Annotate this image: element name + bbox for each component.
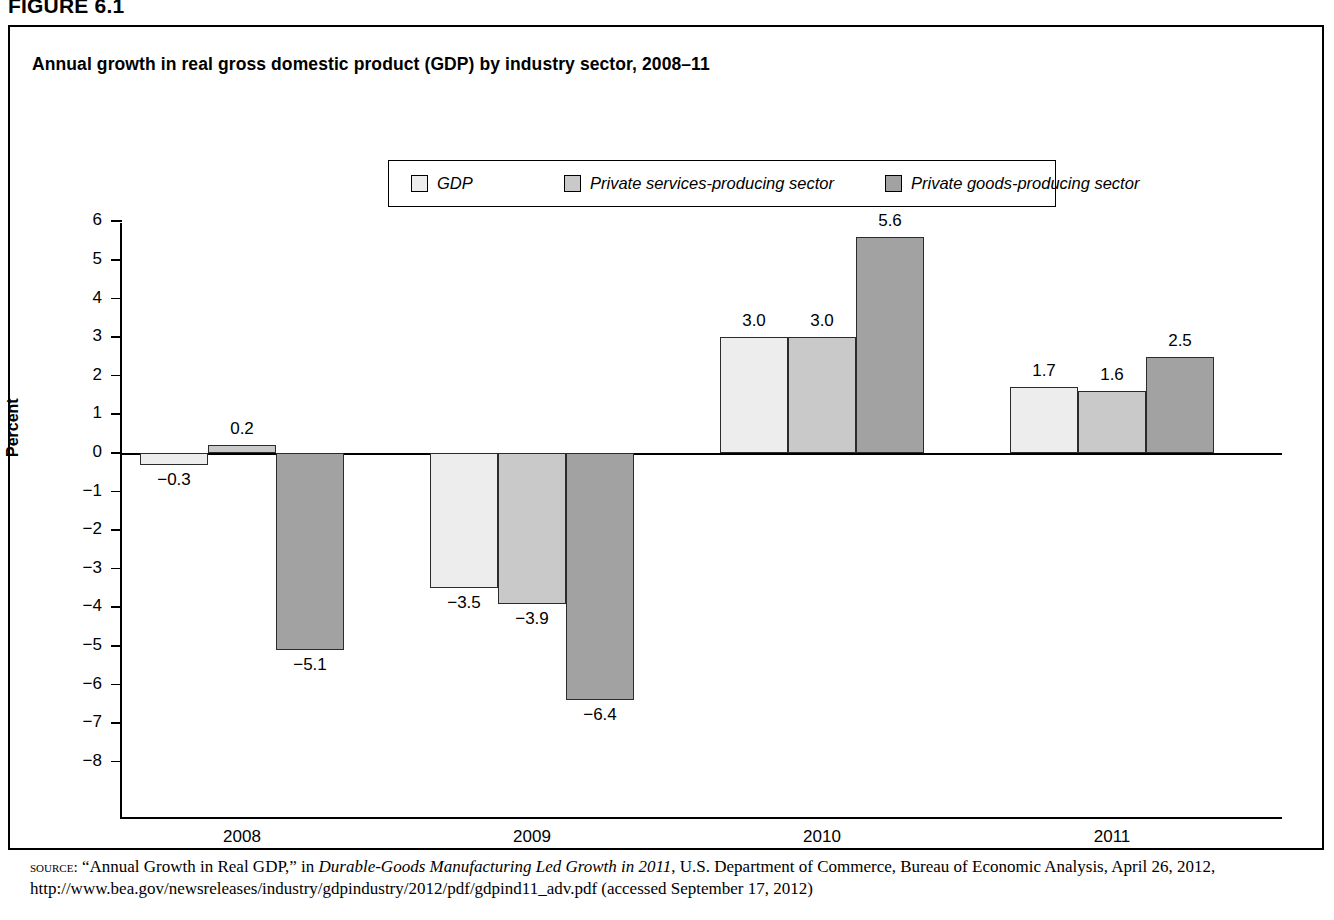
y-tick-label: 4 bbox=[60, 288, 102, 308]
source-text: “Annual Growth in Real GDP,” in bbox=[78, 857, 319, 876]
y-tick bbox=[111, 606, 122, 608]
y-tick-label: 5 bbox=[60, 249, 102, 269]
y-tick bbox=[111, 761, 122, 763]
y-tick bbox=[111, 336, 122, 338]
source-kicker: source: bbox=[30, 858, 78, 875]
y-tick bbox=[111, 529, 122, 531]
x-axis-label: 2010 bbox=[720, 827, 924, 847]
bar bbox=[140, 453, 208, 465]
bar bbox=[856, 237, 924, 453]
x-axis-line bbox=[120, 817, 1282, 819]
y-tick bbox=[111, 491, 122, 493]
bar bbox=[788, 337, 856, 453]
bar-value-label: 2.5 bbox=[1130, 331, 1230, 351]
bar bbox=[1010, 387, 1078, 453]
source-title-italic: Durable-Goods Manufacturing Led Growth i… bbox=[319, 857, 672, 876]
y-tick bbox=[111, 413, 122, 415]
x-axis-label: 2008 bbox=[140, 827, 344, 847]
bar-value-label: −6.4 bbox=[550, 705, 650, 725]
y-tick-label: 1 bbox=[60, 403, 102, 423]
y-tick-label: −6 bbox=[60, 674, 102, 694]
y-tick-label: −3 bbox=[60, 558, 102, 578]
y-tick-label: −1 bbox=[60, 481, 102, 501]
y-tick bbox=[111, 375, 122, 377]
bar bbox=[498, 453, 566, 604]
x-axis-label: 2009 bbox=[430, 827, 634, 847]
bar-value-label: 0.2 bbox=[192, 419, 292, 439]
y-tick-label: 3 bbox=[60, 326, 102, 346]
y-tick bbox=[111, 452, 122, 454]
y-tick-label: −8 bbox=[60, 751, 102, 771]
y-tick-label: −7 bbox=[60, 712, 102, 732]
y-tick-label: −2 bbox=[60, 519, 102, 539]
y-axis-line bbox=[120, 223, 122, 819]
bar bbox=[208, 445, 276, 453]
y-tick-label: 2 bbox=[60, 365, 102, 385]
y-tick bbox=[111, 684, 122, 686]
y-tick-label: −4 bbox=[60, 596, 102, 616]
bar bbox=[276, 453, 344, 650]
source-note: source: “Annual Growth in Real GDP,” in … bbox=[30, 856, 1320, 901]
bar bbox=[566, 453, 634, 700]
y-tick-label: −5 bbox=[60, 635, 102, 655]
y-tick bbox=[111, 259, 122, 261]
bar-value-label: 5.6 bbox=[840, 211, 940, 231]
figure-frame: Annual growth in real gross domestic pro… bbox=[8, 25, 1324, 850]
y-tick bbox=[111, 568, 122, 570]
bar bbox=[720, 337, 788, 453]
y-tick-label: 6 bbox=[60, 210, 102, 230]
y-tick bbox=[111, 298, 122, 300]
x-axis-label: 2011 bbox=[1010, 827, 1214, 847]
y-tick-label: 0 bbox=[60, 442, 102, 462]
bar bbox=[1146, 357, 1214, 454]
y-tick bbox=[111, 645, 122, 647]
bar bbox=[430, 453, 498, 588]
y-tick bbox=[111, 220, 122, 222]
y-tick bbox=[111, 722, 122, 724]
bar-value-label: −5.1 bbox=[260, 655, 360, 675]
bar-value-label: −0.3 bbox=[124, 470, 224, 490]
figure-label: FIGURE 6.1 bbox=[8, 0, 124, 18]
plot-area: Percent 6543210−1−2−3−4−5−6−7−8 −0.30.2−… bbox=[10, 27, 1326, 852]
y-axis-title: Percent bbox=[4, 398, 22, 457]
bar bbox=[1078, 391, 1146, 453]
